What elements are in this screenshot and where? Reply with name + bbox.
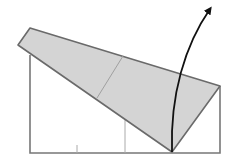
fold-diagram [0, 0, 228, 164]
diagram-svg [0, 0, 228, 164]
